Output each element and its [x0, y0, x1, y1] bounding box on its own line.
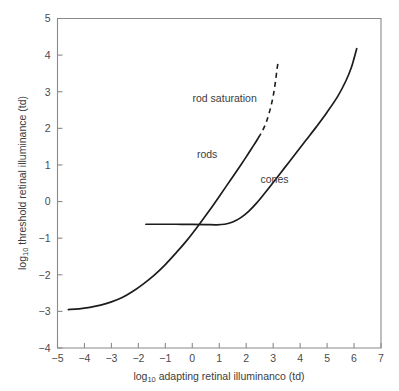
y-axis-title-text: log10 threshold retinal illuminance (td) — [16, 96, 30, 270]
x-axis-title: log10 adapting retinal illuminanco (td) — [133, 370, 304, 384]
y-tick-label: 0 — [45, 195, 51, 207]
plot-frame — [58, 19, 382, 349]
x-tick-label: −1 — [159, 352, 171, 364]
y-axis-tick-labels: −4−3−2−1012345 — [39, 12, 51, 354]
x-tick-label: 2 — [243, 352, 249, 364]
x-tick-label: 6 — [351, 352, 357, 364]
data-curves — [68, 49, 356, 310]
x-tick-label: 1 — [216, 352, 222, 364]
x-tick-label: −2 — [132, 352, 144, 364]
y-tick-label: −4 — [39, 342, 51, 354]
curve-cones — [146, 49, 357, 225]
x-tick-label: −4 — [78, 352, 90, 364]
threshold-vs-adapting-illuminance-chart: −5−4−3−2−101234567 −4−3−2−1012345 rod sa… — [0, 0, 399, 391]
x-tick-label: 7 — [378, 352, 384, 364]
y-tick-label: 1 — [45, 159, 51, 171]
x-tick-label: −5 — [52, 352, 64, 364]
y-axis-ticks — [58, 19, 63, 349]
annotation-cones: cones — [260, 173, 288, 185]
x-axis-tick-labels: −5−4−3−2−101234567 — [52, 352, 385, 364]
y-tick-label: −2 — [39, 269, 51, 281]
y-tick-label: −3 — [39, 305, 51, 317]
x-axis-title-text: log10 adapting retinal illuminanco (td) — [133, 370, 304, 384]
x-tick-label: 3 — [270, 352, 276, 364]
y-tick-label: −1 — [39, 232, 51, 244]
curve-annotations: rod saturationrodscones — [193, 92, 289, 185]
y-tick-label: 5 — [45, 12, 51, 24]
x-tick-label: 5 — [324, 352, 330, 364]
axis-spines — [58, 19, 382, 349]
chart-page: −5−4−3−2−101234567 −4−3−2−1012345 rod sa… — [0, 0, 399, 391]
y-axis-title: log10 threshold retinal illuminance (td) — [16, 96, 30, 270]
y-tick-label: 3 — [45, 86, 51, 98]
x-tick-label: 0 — [189, 352, 195, 364]
annotation-rod-saturation: rod saturation — [193, 92, 257, 104]
y-tick-label: 4 — [45, 49, 51, 61]
curve-rod-saturation — [258, 62, 278, 137]
x-axis-ticks — [58, 343, 382, 348]
x-tick-label: 4 — [297, 352, 303, 364]
x-tick-label: −3 — [105, 352, 117, 364]
y-tick-label: 2 — [45, 122, 51, 134]
annotation-rods: rods — [197, 148, 217, 160]
